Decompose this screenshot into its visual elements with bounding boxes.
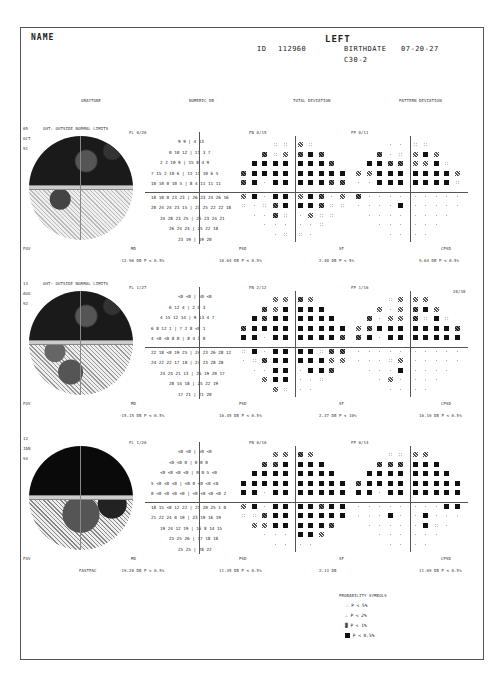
normal-dot-icon [423, 387, 428, 392]
solid-square-icon [308, 307, 313, 312]
solid-square-icon [398, 335, 403, 340]
solid-square-icon [329, 504, 334, 509]
solid-square-icon [273, 368, 278, 373]
solid-square-icon [308, 368, 313, 373]
solid-square-icon [423, 481, 428, 486]
light-hatch-icon [398, 297, 403, 302]
light-hatch-icon [283, 297, 288, 302]
light-hatch-icon [423, 452, 428, 457]
solid-square-icon [398, 171, 403, 176]
vertical-meridian [80, 446, 81, 550]
normal-dot-icon [444, 194, 449, 199]
solid-square-icon [273, 523, 278, 528]
normal-dot-icon [413, 222, 418, 227]
numeric-row: <0 <0 0 | 0 0 0 [169, 459, 208, 466]
normal-dot-icon [413, 368, 418, 373]
light-hatch-icon [423, 161, 428, 166]
solid-square-icon [241, 335, 246, 340]
solid-square-icon [329, 335, 334, 340]
solid-square-icon [283, 161, 288, 166]
solid-square-icon [273, 471, 278, 476]
solid-square-icon [308, 171, 313, 176]
normal-dot-icon [308, 222, 313, 227]
normal-dot-icon [308, 232, 313, 237]
total-deviation-grid [241, 142, 351, 242]
light-hatch-icon [298, 194, 303, 199]
dot-pattern-icon [241, 349, 246, 354]
normal-dot-icon [413, 358, 418, 363]
visual-field-printout: NAME LEFT ID 112960 BIRTHDATE 07-20-27 C… [20, 27, 484, 660]
normal-dot-icon [262, 490, 267, 495]
numeric-row: <0 <0 | <0 <0 [178, 448, 212, 455]
solid-square-icon [329, 481, 334, 486]
dot-pattern-icon [388, 358, 393, 363]
dense-hatch-icon [377, 152, 382, 157]
normal-dot-icon [423, 213, 428, 218]
solid-square-icon [273, 194, 278, 199]
dot-pattern-icon [329, 213, 334, 218]
solid-square-icon [455, 504, 460, 509]
horizontal-meridian [29, 495, 133, 500]
solid-square-icon [273, 326, 278, 331]
light-hatch-icon [388, 316, 393, 321]
numeric-row: 25 25 | 28 22 [178, 546, 212, 553]
solid-square-icon [273, 335, 278, 340]
legend-item-2pct: ∴ P < 2% [345, 613, 367, 618]
legend-item-1pct: ▓ P < 1% [345, 623, 367, 628]
solid-square-icon [252, 171, 257, 176]
normal-dot-icon [388, 213, 393, 218]
dot-pattern-icon [262, 203, 267, 208]
solid-square-icon [356, 490, 361, 495]
solid-square-icon [377, 471, 382, 476]
light-hatch-icon [356, 171, 361, 176]
solid-square-icon [252, 326, 257, 331]
solid-square-icon [444, 180, 449, 185]
normal-dot-icon [356, 349, 361, 354]
sf-label: SF [339, 401, 344, 406]
cpsd-value: 11.09 DB P < 0.5% [419, 568, 462, 573]
normal-dot-icon [298, 387, 303, 392]
extra-count: 28/38 [453, 289, 466, 294]
vertical-meridian [410, 136, 411, 242]
solid-square-icon [398, 326, 403, 331]
normal-dot-icon [444, 203, 449, 208]
dot-pattern-icon [298, 232, 303, 237]
dense-hatch-icon [262, 152, 267, 157]
normal-dot-icon [398, 542, 403, 547]
numeric-row: 10 10 0 10 5 | 8 4 11 11 11 [151, 180, 221, 187]
light-hatch-icon [273, 307, 278, 312]
dot-pattern-icon [273, 142, 278, 147]
normal-dot-icon [434, 213, 439, 218]
numeric-row: 17 21 | 21 20 [178, 391, 212, 398]
dense-hatch-icon [367, 316, 372, 321]
sf-label: SF [339, 246, 344, 251]
normal-dot-icon [434, 194, 439, 199]
numeric-row: 24 28 23 25 | 26 23 24 21 [160, 215, 225, 222]
dense-hatch-icon [413, 307, 418, 312]
solid-square-icon [298, 471, 303, 476]
solid-square-icon [273, 377, 278, 382]
normal-dot-icon [388, 307, 393, 312]
normal-dot-icon [262, 349, 267, 354]
normal-dot-icon [388, 152, 393, 157]
normal-dot-icon [283, 222, 288, 227]
false-negatives: FN 0/15 [249, 130, 267, 135]
solid-square-icon [398, 368, 403, 373]
normal-dot-icon [413, 542, 418, 547]
solid-square-icon [398, 180, 403, 185]
solid-square-icon [273, 349, 278, 354]
normal-dot-icon [444, 349, 449, 354]
solid-square-icon [398, 481, 403, 486]
vertical-meridian [295, 291, 296, 397]
solid-square-icon [283, 513, 288, 518]
solid-square-icon [398, 471, 403, 476]
id-value: 112960 [278, 45, 306, 53]
solid-square-icon [252, 316, 257, 321]
light-hatch-icon [340, 358, 345, 363]
normal-dot-icon [377, 316, 382, 321]
solid-square-icon [388, 490, 393, 495]
horizontal-meridian [350, 347, 468, 348]
solid-square-icon [319, 161, 324, 166]
solid-square-icon [345, 633, 350, 638]
solid-square-icon [319, 307, 324, 312]
